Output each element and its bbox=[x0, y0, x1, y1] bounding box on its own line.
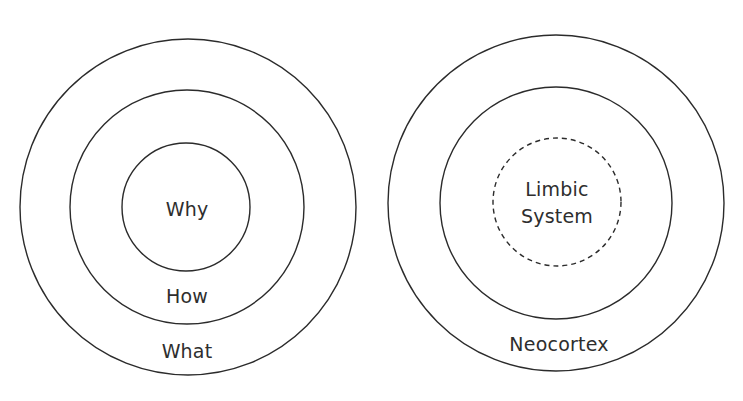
limbic-system-label: Limbic System bbox=[521, 176, 593, 230]
what-label: What bbox=[162, 338, 213, 365]
how-label: How bbox=[166, 283, 208, 310]
neocortex-label: Neocortex bbox=[509, 331, 608, 358]
diagram-canvas bbox=[0, 0, 743, 401]
limbic-label-line2: System bbox=[521, 203, 593, 230]
limbic-label-line1: Limbic bbox=[521, 176, 593, 203]
why-label: Why bbox=[166, 196, 209, 223]
